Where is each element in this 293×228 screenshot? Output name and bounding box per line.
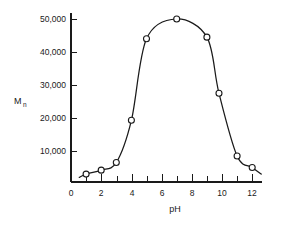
y-tick-label-50000: 50,000 [40,14,66,24]
chart-figure: 50,000 40,000 30,000 20,000 10,000 M n 0… [0,0,293,228]
data-point-marker [98,167,104,173]
x-tick-label-8: 8 [190,188,195,198]
data-point-marker [216,90,222,96]
x-tick-label-6: 6 [160,188,165,198]
x-tick-label-4: 4 [130,188,135,198]
data-point-marker [144,36,150,42]
y-axis-title: M n [14,96,27,108]
data-point-marker [83,171,89,177]
y-tick-label-20000: 20,000 [40,113,66,123]
y-axis-ticks [71,19,77,151]
data-curve [79,19,261,177]
y-tick-label-40000: 40,000 [40,47,66,57]
data-point-marker [249,165,255,171]
x-tick-label-12: 12 [247,188,257,198]
x-tick-label-10: 10 [217,188,227,198]
y-tick-label-30000: 30,000 [40,80,66,90]
data-point-marker [234,153,240,159]
data-point-marker [113,160,119,166]
data-point-marker [204,34,210,40]
y-axis-tick-labels: 50,000 40,000 30,000 20,000 10,000 [40,14,66,156]
data-point-marker [174,16,180,22]
y-tick-label-10000: 10,000 [40,146,66,156]
x-tick-label-0: 0 [69,188,74,198]
axes [71,13,262,182]
y-axis-title-subscript: n [23,101,27,108]
x-axis-tick-labels: 0 2 4 6 8 10 12 [69,188,257,198]
x-axis-title: pH [169,204,181,214]
x-axis-ticks [86,174,252,182]
data-point-markers [83,16,255,177]
y-axis-title-base: M [14,96,22,106]
x-tick-label-2: 2 [99,188,104,198]
data-point-marker [128,117,134,123]
